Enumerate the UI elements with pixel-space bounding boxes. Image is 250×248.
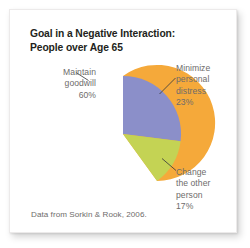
chart-card: Goal in a Negative Interaction: People o… — [9, 9, 237, 233]
figure-root: Goal in a Negative Interaction: People o… — [0, 0, 250, 248]
pie-label-change-other-person: Change the other person 17% — [176, 167, 237, 213]
pie-label-minimize-distress: Minimize personal distress 23% — [176, 63, 237, 109]
pie-label-maintain-goodwill: Maintain goodwill 60% — [23, 67, 96, 101]
source-note: Data from Sorkin & Rook, 2006. — [31, 210, 147, 219]
